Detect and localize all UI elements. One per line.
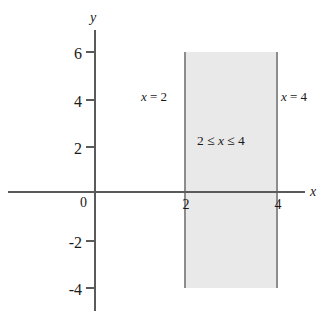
origin-label: 0 [80,196,87,210]
x-axis [8,191,305,193]
tick-label-y-neg4: -4 [52,281,82,295]
annotation-x-equals-2: x = 2 [141,90,167,103]
tick-label-y-neg2: -2 [52,234,82,248]
tick-label-y-4: 4 [52,93,82,107]
tick-label-y-6: 6 [52,45,82,59]
boundary-line-x2 [184,52,186,288]
tick-label-x-4: 4 [268,198,288,212]
y-axis [94,30,96,311]
y-axis-label: y [90,11,96,25]
tick-label-y-2: 2 [52,140,82,154]
tick-mark-y-2 [86,146,95,148]
tick-mark-y-neg4 [86,287,95,289]
annotation-x-equals-4: x = 4 [281,90,307,103]
annotation-inequality: 2 ≤ x ≤ 4 [197,134,245,148]
tick-label-x-2: 2 [176,198,196,212]
shaded-region [185,52,277,288]
inequality-prefix: 2 ≤ [197,133,218,148]
tick-mark-y-4 [86,99,95,101]
annotation-value: = 4 [287,89,307,104]
tick-mark-y-neg2 [86,240,95,242]
inequality-suffix: ≤ 4 [224,133,245,148]
graph-figure: x y 6 4 2 -2 -4 0 2 4 x = 2 x = 4 2 ≤ x … [0,0,330,331]
x-axis-label: x [310,185,316,199]
tick-mark-y-6 [86,51,95,53]
annotation-value: = 2 [147,89,167,104]
boundary-line-x4 [276,52,278,288]
